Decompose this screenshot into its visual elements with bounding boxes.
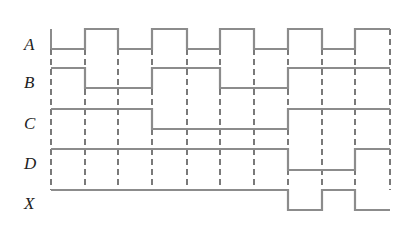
signal-label-a: A <box>24 36 34 53</box>
signal-label-d: D <box>24 155 36 172</box>
signal-trace-a <box>51 29 390 49</box>
signal-trace-b <box>51 68 390 88</box>
signal-label-c: C <box>24 115 35 132</box>
timing-diagram-canvas <box>0 0 405 238</box>
timing-diagram: A B C D X <box>0 0 405 238</box>
signal-trace-x <box>51 190 390 210</box>
signal-label-b: B <box>24 74 34 91</box>
signal-label-x: X <box>24 195 34 212</box>
